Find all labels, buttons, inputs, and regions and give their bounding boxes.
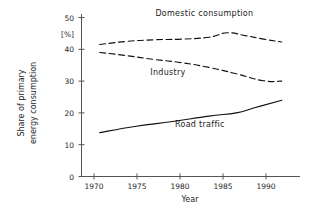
y-axis-title-line2: energy consumption	[29, 62, 38, 144]
y-tick-label-30: 30	[64, 77, 74, 86]
chart-container: 50 40 30 20 10 0 [%] 1970 1975 1980 1985…	[0, 0, 316, 208]
series-line-industry	[100, 52, 282, 81]
energy-share-line-chart: 50 40 30 20 10 0 [%] 1970 1975 1980 1985…	[0, 0, 316, 208]
series-label-road-traffic: Road traffic	[175, 120, 225, 129]
y-axis-title-line1: Share of primary	[17, 69, 26, 136]
y-tick-label-40: 40	[64, 45, 74, 54]
y-tick-label-0: 0	[69, 173, 74, 182]
y-tick-label-10: 10	[64, 141, 74, 150]
x-tick-label-1980: 1980	[170, 182, 189, 191]
x-tick-label-1975: 1975	[127, 182, 146, 191]
x-tick-label-1970: 1970	[84, 182, 103, 191]
y-tick-label-20: 20	[64, 109, 74, 118]
y-axis-unit-label: [%]	[61, 30, 74, 39]
series-label-industry: Industry	[150, 68, 185, 77]
x-axis-title: Year	[181, 195, 200, 204]
x-tick-label-1985: 1985	[213, 182, 232, 191]
series-line-domestic-consumption	[100, 33, 282, 45]
series-label-domestic-consumption: Domestic consumption	[155, 9, 253, 18]
y-tick-label-50: 50	[64, 14, 74, 23]
x-tick-label-1990: 1990	[256, 182, 275, 191]
